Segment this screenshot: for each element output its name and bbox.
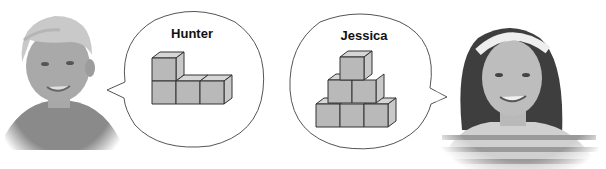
boy-photo: [0, 0, 606, 169]
hunter-name-label: Hunter: [162, 26, 222, 41]
boy-figure: [0, 0, 125, 160]
girl-figure: [436, 10, 606, 169]
jessica-name-label: Jessica: [334, 28, 394, 43]
